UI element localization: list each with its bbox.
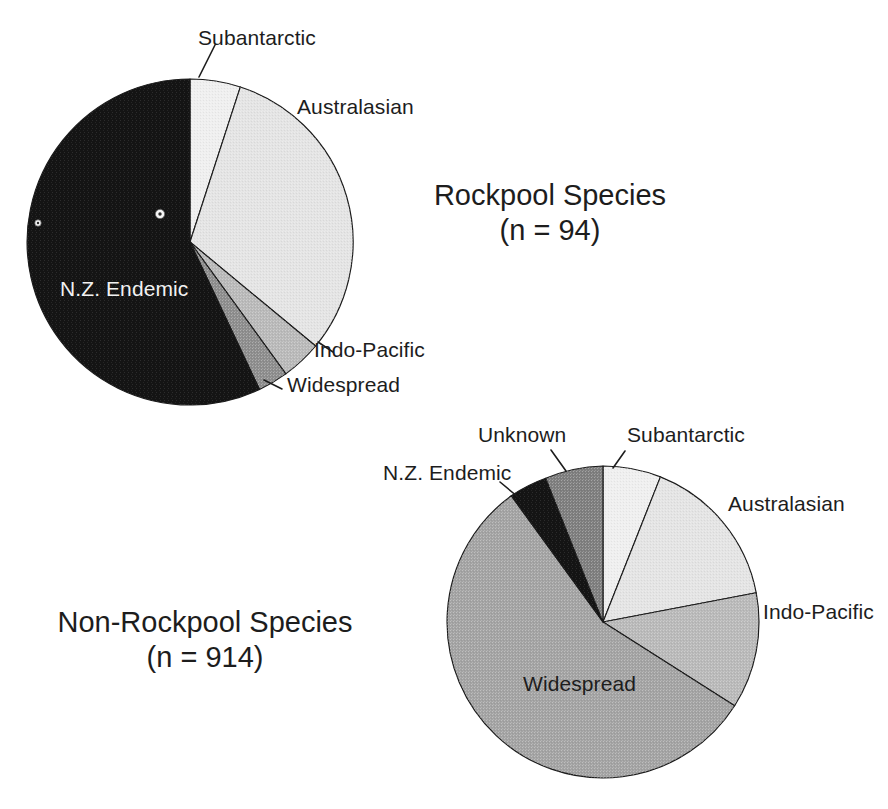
label-widespread-non-rockpool: Widespread	[523, 672, 636, 696]
label-subantarctic-rockpool: Subantarctic	[198, 26, 316, 50]
non-rockpool-pie	[447, 450, 759, 778]
label-widespread-rockpool: Widespread	[287, 373, 400, 397]
leader-line-unknown-bottom	[551, 450, 566, 471]
title-non-rockpool-species: Non-Rockpool Species (n = 914)	[58, 605, 353, 676]
scan-speck-left	[35, 220, 41, 226]
title-non-rockpool-main: Non-Rockpool Species	[58, 605, 353, 640]
label-subantarctic-non-rockpool: Subantarctic	[627, 423, 745, 447]
figure-root: Subantarctic Australasian Indo-Pacific W…	[0, 0, 888, 809]
leader-line-subantarctic-bottom	[613, 451, 625, 468]
title-rockpool-sub: (n = 94)	[434, 213, 666, 248]
title-rockpool-main: Rockpool Species	[434, 178, 666, 213]
pie-charts-canvas	[0, 0, 888, 809]
label-australasian-rockpool: Australasian	[297, 95, 414, 119]
label-nz-endemic-rockpool: N.Z. Endemic	[60, 277, 188, 301]
label-unknown-non-rockpool: Unknown	[478, 423, 566, 447]
scan-speck-right	[155, 209, 164, 218]
label-indo-pacific-non-rockpool: Indo-Pacific	[763, 600, 874, 624]
label-australasian-non-rockpool: Australasian	[728, 492, 845, 516]
title-non-rockpool-sub: (n = 914)	[58, 640, 353, 675]
label-indo-pacific-rockpool: Indo-Pacific	[314, 338, 425, 362]
title-rockpool-species: Rockpool Species (n = 94)	[434, 178, 666, 249]
label-nz-endemic-non-rockpool: N.Z. Endemic	[383, 461, 511, 485]
